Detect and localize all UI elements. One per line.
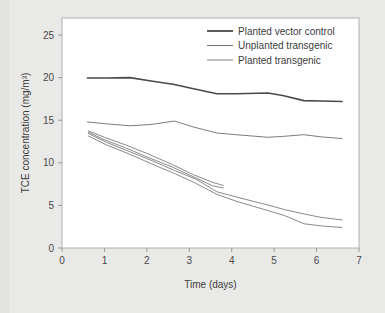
chart-card: 0510152025 01234567 Planted vector contr…	[9, 0, 385, 313]
line-chart: 0510152025 01234567 Planted vector contr…	[9, 0, 385, 313]
y-tick-label: 15	[43, 115, 55, 126]
x-tick-label: 0	[59, 255, 65, 266]
y-axis-title: TCE concentration (mg/m³)	[20, 73, 31, 194]
x-tick-label: 6	[314, 255, 320, 266]
x-tick-label: 7	[356, 255, 362, 266]
y-tick-label: 0	[48, 243, 54, 254]
x-tick-label: 1	[102, 255, 108, 266]
figure-root: 0510152025 01234567 Planted vector contr…	[0, 0, 385, 313]
legend-label: Planted vector control	[238, 26, 335, 37]
x-axis-title: Time (days)	[184, 279, 236, 290]
legend-label: Planted transgenic	[238, 55, 321, 66]
x-tick-label: 4	[229, 255, 235, 266]
plot-frame	[62, 18, 359, 248]
legend-label: Unplanted transgenic	[238, 40, 333, 51]
chart-legend: Planted vector controlUnplanted transgen…	[207, 26, 335, 66]
y-tick-label: 20	[43, 72, 55, 83]
y-tick-label: 5	[48, 200, 54, 211]
y-tick-label: 25	[43, 30, 55, 41]
x-tick-label: 5	[271, 255, 277, 266]
y-tick-label: 10	[43, 157, 55, 168]
x-tick-label: 2	[144, 255, 150, 266]
x-tick-label: 3	[187, 255, 193, 266]
